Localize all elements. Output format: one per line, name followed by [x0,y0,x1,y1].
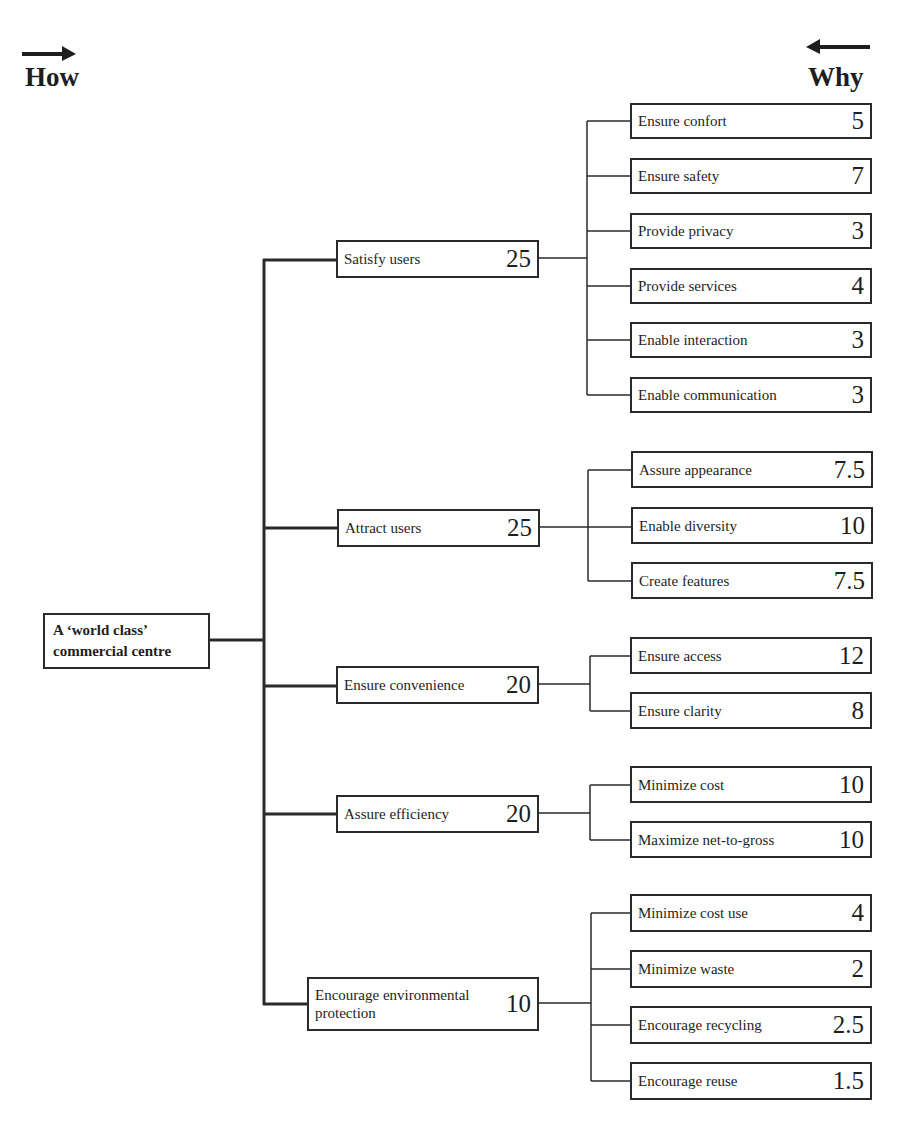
objective-box: Ensure convenience 20 [336,666,539,704]
criterion-weight: 3 [852,326,871,354]
criterion-box: Enable communication3 [630,377,872,413]
criterion-box: Minimize waste2 [630,950,872,988]
criterion-label: Create features [633,572,729,590]
criterion-box: Ensure safety7 [630,158,872,194]
criterion-label: Ensure access [632,647,722,665]
objective-label: Encourage environmental protection [309,986,470,1022]
objective-weight: 20 [506,671,537,699]
objective-label: Attract users [339,519,421,537]
how-label: How [25,62,79,93]
criterion-weight: 2 [852,955,871,983]
criterion-label: Encourage recycling [632,1016,762,1034]
criterion-label: Ensure confort [632,112,727,130]
criterion-label: Minimize cost [632,776,724,794]
criterion-label: Minimize waste [632,960,734,978]
criterion-box: Encourage recycling2.5 [630,1006,872,1044]
objective-box: Attract users 25 [337,509,540,547]
criterion-box: Enable diversity10 [631,507,873,544]
objective-label-line2: protection [315,1004,470,1022]
criterion-box: Minimize cost10 [630,766,872,803]
root-goal-box: A ‘world class’ commercial centre [43,613,210,669]
criterion-label: Enable diversity [633,517,737,535]
criterion-weight: 7 [852,162,871,190]
objective-label: Satisfy users [338,250,420,268]
objective-weight: 20 [506,800,537,828]
objective-box: Encourage environmental protection 10 [307,977,539,1031]
criterion-label: Maximize net-to-gross [632,831,774,849]
root-goal-line2: commercial centre [45,641,208,662]
objective-box: Satisfy users 25 [336,240,539,278]
criterion-weight: 3 [852,381,871,409]
criterion-weight: 7.5 [834,567,871,595]
criterion-weight: 10 [840,512,871,540]
objective-weight: 10 [506,990,537,1018]
criterion-weight: 4 [852,899,871,927]
criterion-label: Provide privacy [632,222,733,240]
criterion-weight: 2.5 [833,1011,870,1039]
objective-weight: 25 [507,514,538,542]
criterion-weight: 10 [839,771,870,799]
criterion-box: Provide services4 [630,268,872,304]
objective-label: Assure efficiency [338,805,449,823]
objective-weight: 25 [506,245,537,273]
criterion-box: Ensure access12 [630,637,872,674]
criterion-weight: 8 [852,697,871,725]
criterion-weight: 5 [852,107,871,135]
criterion-weight: 3 [852,217,871,245]
criterion-box: Assure appearance7.5 [631,451,873,488]
objective-label-line1: Encourage environmental [315,986,470,1004]
criterion-label: Ensure safety [632,167,719,185]
criterion-box: Enable interaction3 [630,322,872,358]
why-label: Why [808,62,864,93]
criterion-box: Encourage reuse1.5 [630,1062,872,1100]
criterion-label: Encourage reuse [632,1072,738,1090]
root-goal-line1: A ‘world class’ [45,620,208,641]
objective-label: Ensure convenience [338,676,464,694]
criterion-label: Enable communication [632,386,777,404]
criterion-weight: 4 [852,272,871,300]
how-arrow-icon [22,46,76,61]
criterion-label: Ensure clarity [632,702,722,720]
criterion-box: Ensure clarity8 [630,692,872,729]
criterion-label: Provide services [632,277,737,295]
criterion-label: Enable interaction [632,331,748,349]
criterion-weight: 12 [839,642,870,670]
criterion-weight: 10 [839,826,870,854]
criterion-label: Assure appearance [633,461,752,479]
criterion-label: Minimize cost use [632,904,748,922]
criterion-box: Ensure confort5 [630,103,872,139]
criterion-weight: 7.5 [834,456,871,484]
why-arrow-icon [460,0,870,54]
criterion-box: Minimize cost use4 [630,894,872,932]
criterion-box: Provide privacy3 [630,213,872,249]
criterion-weight: 1.5 [833,1067,870,1095]
criterion-box: Create features7.5 [631,562,873,599]
criterion-box: Maximize net-to-gross10 [630,821,872,858]
objective-box: Assure efficiency 20 [336,795,539,833]
